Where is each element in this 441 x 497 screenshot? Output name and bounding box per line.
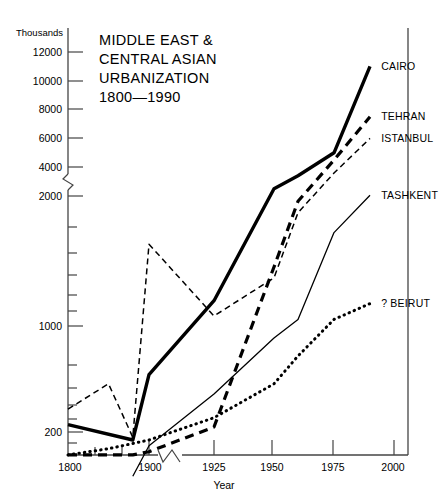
x-tick-label: 1975	[321, 461, 345, 473]
y-tick-label: 6000	[39, 132, 63, 144]
y-tick-labels: 12000 10000 8000 6000 4000 2000 1000 200	[33, 46, 62, 438]
title-line-4: 1800—1990	[99, 89, 181, 105]
title-line-3: URBANIZATION	[99, 70, 209, 86]
series-label-tashkent: TASHKENT	[381, 189, 438, 201]
chart-svg: 12000 10000 8000 6000 4000 2000 1000 200…	[0, 0, 441, 497]
y-tick-label: 2000	[39, 190, 63, 202]
title-line-1: MIDDLE EAST &	[99, 32, 213, 48]
series-label-cairo: CAIRO	[381, 60, 415, 72]
chart-title: MIDDLE EAST & CENTRAL ASIAN URBANIZATION…	[99, 32, 217, 105]
series-label-beirut: ? BEIRUT	[381, 297, 430, 309]
series-label-tehran: TEHRAN	[381, 110, 425, 122]
x-tick-label: 1800	[58, 461, 82, 473]
y-axis-unit-label: Thousands	[16, 27, 63, 38]
series-line-cairo	[68, 66, 370, 440]
urbanization-line-chart: 12000 10000 8000 6000 4000 2000 1000 200…	[0, 0, 441, 497]
y-axis-break	[62, 174, 75, 190]
series-line-tehran	[68, 117, 370, 455]
series-line-beirut	[68, 304, 370, 455]
x-axis-title: Year	[213, 479, 235, 491]
title-line-2: CENTRAL ASIAN	[99, 51, 217, 67]
y-tick-label: 8000	[39, 103, 63, 115]
x-tick-label: 1925	[202, 461, 226, 473]
y-tick-label: 12000	[33, 46, 62, 58]
x-tick-label: 1950	[260, 461, 284, 473]
x-tick-labels: 1800 1900 1925 1950 1975 2000	[58, 461, 405, 473]
y-tick-label: 10000	[33, 75, 62, 87]
x-tick-label: 1900	[138, 461, 162, 473]
y-tick-label: 200	[44, 426, 62, 438]
series-line-tashkent	[133, 195, 370, 476]
x-tick-label: 2000	[381, 461, 405, 473]
y-axis-ticks	[68, 52, 83, 443]
series-layer	[68, 66, 370, 476]
series-annotations: CAIROTEHRANISTANBULTASHKENT? BEIRUT	[381, 60, 438, 309]
y-tick-label: 1000	[39, 320, 63, 332]
y-tick-label: 4000	[39, 161, 63, 173]
series-label-istanbul: ISTANBUL	[381, 132, 433, 144]
